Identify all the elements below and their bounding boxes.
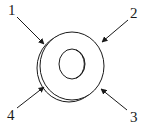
- label-4: 4: [7, 108, 15, 123]
- washer-diagram: [0, 0, 145, 128]
- arrow-4: [17, 87, 44, 108]
- washer-front-face: [40, 32, 104, 100]
- label-2: 2: [130, 6, 138, 21]
- label-1: 1: [8, 3, 16, 18]
- arrow-2: [102, 20, 128, 42]
- arrow-1: [17, 17, 44, 44]
- label-3: 3: [130, 110, 138, 125]
- arrow-3: [101, 89, 127, 110]
